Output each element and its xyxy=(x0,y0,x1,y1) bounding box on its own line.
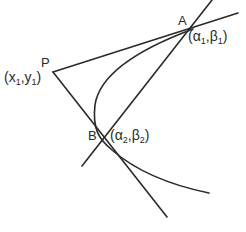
coord-b-x-sub: 2 xyxy=(123,135,128,145)
point-label-b: B xyxy=(88,129,97,142)
coord-p-y: y xyxy=(25,69,32,85)
coord-label-a: (α1,β1) xyxy=(188,29,227,46)
coord-b-y-sub: 2 xyxy=(140,135,145,145)
coord-b-y: β xyxy=(132,127,140,143)
coord-label-b: (α2,β2) xyxy=(110,128,149,145)
coord-label-p: (x1,y1) xyxy=(4,70,41,87)
point-label-p: P xyxy=(41,56,50,69)
coord-a-y-sub: 1 xyxy=(218,36,223,46)
coord-a-y: β xyxy=(210,28,218,44)
coord-p-x: x xyxy=(9,69,16,85)
coord-p-x-sub: 1 xyxy=(16,77,21,87)
point-label-a: A xyxy=(178,14,187,27)
coord-a-x-sub: 1 xyxy=(201,36,206,46)
coord-b-x: α xyxy=(115,127,123,143)
coord-p-y-sub: 1 xyxy=(32,77,37,87)
coord-a-x: α xyxy=(193,28,201,44)
